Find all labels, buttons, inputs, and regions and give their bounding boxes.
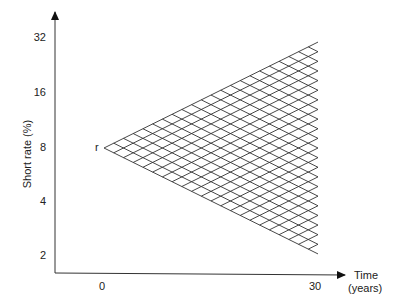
y-tick-16: 16 (26, 86, 46, 98)
x-axis-label-years: (years) (348, 282, 382, 294)
x-tick-30: 30 (309, 280, 321, 292)
binomial-lattice (104, 42, 318, 254)
root-label: r (95, 141, 99, 153)
y-tick-32: 32 (26, 31, 46, 43)
y-axis-label: Short rate (%) (21, 109, 33, 199)
lattice-diagram (0, 0, 407, 307)
y-tick-2: 2 (26, 249, 46, 261)
x-axis (55, 273, 345, 275)
x-tick-0: 0 (99, 280, 105, 292)
x-axis-label-time: Time (354, 269, 378, 281)
